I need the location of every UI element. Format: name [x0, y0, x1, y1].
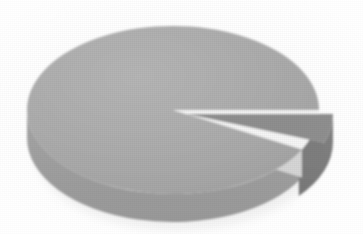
pie-chart-svg — [0, 0, 363, 234]
pie-chart-figure — [0, 0, 363, 234]
